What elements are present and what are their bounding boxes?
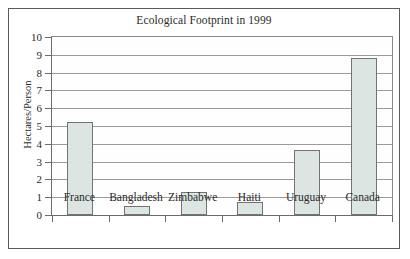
x-axis-tick-mark [335, 215, 336, 222]
x-axis-tick-label: Zimbabwe [168, 191, 217, 203]
y-axis-title: Hectares/Person [22, 60, 33, 170]
y-axis-tick-label: 3 [37, 156, 43, 167]
plot-area: 012345678910 [51, 36, 393, 216]
bar [124, 206, 150, 215]
gridline [52, 55, 392, 56]
x-axis-tick-label: France [64, 191, 95, 203]
y-axis-tick-mark [45, 215, 51, 216]
gridline [52, 126, 392, 127]
y-axis-tick-mark [45, 37, 51, 38]
gridline [52, 144, 392, 145]
x-axis-tick-mark [52, 215, 53, 222]
x-axis-tick-mark [165, 215, 166, 222]
chart-figure: Ecological Footprint in 1999 Hectares/Pe… [8, 8, 400, 249]
x-axis-tick-label: Haiti [238, 191, 261, 203]
y-axis-tick-mark [45, 126, 51, 127]
y-axis-tick-label: 7 [37, 85, 43, 96]
y-axis-tick-label: 8 [37, 67, 43, 78]
gridline [52, 90, 392, 91]
y-axis-tick-mark [45, 90, 51, 91]
gridline [52, 197, 392, 198]
y-axis-tick-mark [45, 179, 51, 180]
y-axis-tick-label: 6 [37, 103, 43, 114]
y-axis-tick-label: 10 [31, 32, 42, 43]
y-axis-tick-mark [45, 55, 51, 56]
gridline [52, 162, 392, 163]
bar [237, 202, 263, 215]
y-axis-tick-label: 0 [37, 210, 43, 221]
y-axis-tick-label: 2 [37, 174, 43, 185]
x-axis-tick-label: Uruguay [286, 191, 326, 203]
y-axis-tick-mark [45, 197, 51, 198]
x-axis-tick-label: Bangladesh [109, 191, 163, 203]
x-axis-tick-mark [222, 215, 223, 222]
x-axis-tick-mark [109, 215, 110, 222]
y-axis-tick-mark [45, 144, 51, 145]
y-axis-tick-label: 4 [37, 138, 43, 149]
gridline [52, 73, 392, 74]
chart-title: Ecological Footprint in 1999 [9, 14, 399, 26]
y-axis-tick-mark [45, 73, 51, 74]
y-axis-tick-label: 5 [37, 121, 43, 132]
y-axis-tick-mark [45, 108, 51, 109]
gridline [52, 108, 392, 109]
x-axis-tick-label: Canada [345, 191, 379, 203]
y-axis-tick-label: 1 [37, 192, 43, 203]
bar [294, 150, 320, 215]
gridline [52, 179, 392, 180]
x-axis-tick-mark [279, 215, 280, 222]
y-axis-tick-label: 9 [37, 49, 43, 60]
x-axis-tick-mark [392, 215, 393, 222]
y-axis-tick-mark [45, 162, 51, 163]
